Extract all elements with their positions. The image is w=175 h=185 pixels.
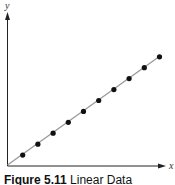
data-point (81, 109, 86, 114)
figure-caption: Figure 5.11 Linear Data (4, 173, 132, 185)
data-point (66, 120, 71, 125)
data-point (20, 153, 25, 158)
caption-text: Linear Data (70, 173, 132, 185)
y-axis-label: y (4, 0, 10, 11)
data-point (51, 131, 56, 136)
x-axis-label: x (168, 160, 174, 171)
data-point (157, 54, 162, 59)
chart: y x (0, 0, 175, 185)
data-point (35, 142, 40, 147)
data-point (127, 76, 132, 81)
data-point (142, 65, 147, 70)
x-axis-arrow-icon (158, 164, 166, 169)
y-axis-arrow-icon (5, 12, 10, 20)
data-point (96, 98, 101, 103)
data-point (111, 87, 116, 92)
caption-label: Figure 5.11 (4, 173, 67, 185)
